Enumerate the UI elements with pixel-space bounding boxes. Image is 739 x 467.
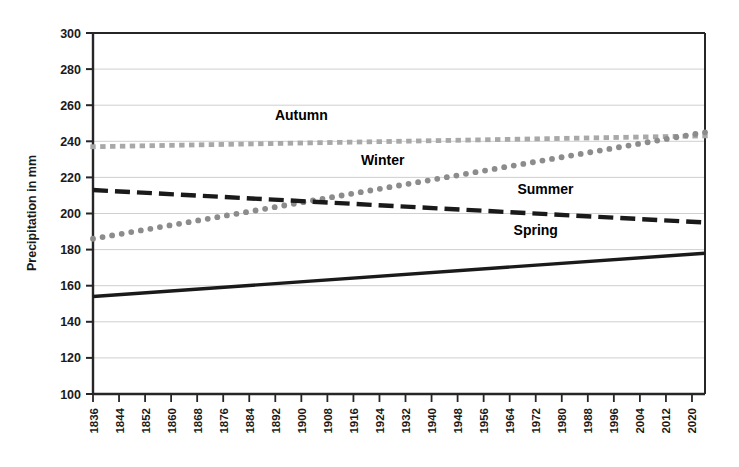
series-marker	[195, 218, 201, 224]
series-label-winter: Winter	[361, 152, 405, 168]
series-marker	[205, 216, 211, 222]
series-marker	[138, 228, 144, 234]
series-marker	[224, 213, 230, 219]
series-marker	[473, 169, 479, 175]
series-marker	[281, 203, 287, 209]
series-spring	[93, 253, 705, 296]
series-marker	[578, 151, 584, 157]
series-marker	[150, 143, 155, 148]
series-marker	[140, 143, 145, 148]
series-marker	[167, 223, 173, 229]
series-marker	[616, 144, 622, 150]
series-marker	[130, 144, 135, 149]
series-marker	[436, 138, 441, 143]
y-tick-label: 100	[60, 388, 81, 402]
series-marker	[90, 144, 95, 149]
series-marker	[248, 142, 253, 147]
series-marker	[446, 138, 451, 143]
series-marker	[604, 135, 609, 140]
series-marker	[100, 234, 106, 240]
series-marker	[268, 141, 273, 146]
series-marker	[465, 138, 470, 143]
series-marker	[169, 143, 174, 148]
series-marker	[307, 140, 312, 145]
series-marker	[426, 138, 431, 143]
series-marker	[654, 138, 660, 144]
precipitation-trend-chart: 100120140160180200220240260280300 183618…	[0, 0, 739, 467]
x-tick-label: 1844	[114, 407, 126, 433]
x-tick-label: 1940	[426, 408, 438, 434]
series-marker	[683, 133, 689, 139]
series-marker	[219, 142, 224, 147]
series-marker	[444, 174, 450, 180]
series-marker	[453, 173, 459, 179]
series-marker	[635, 141, 641, 147]
series-marker	[377, 186, 383, 192]
series-marker	[358, 189, 364, 195]
series-marker	[594, 135, 599, 140]
series-marker	[367, 139, 372, 144]
series-marker	[109, 233, 115, 239]
series-marker	[329, 194, 335, 200]
series-marker	[702, 129, 708, 135]
x-tick-label: 1956	[478, 408, 490, 434]
series-marker	[100, 144, 105, 149]
series-marker	[209, 142, 214, 147]
series-marker	[564, 136, 569, 141]
series-marker	[179, 143, 184, 148]
series-marker	[347, 140, 352, 145]
series-marker	[258, 141, 263, 146]
x-tick-label: 1996	[608, 408, 620, 434]
series-marker	[110, 144, 115, 149]
y-tick-label: 180	[60, 243, 81, 257]
series-marker	[386, 139, 391, 144]
series-marker	[377, 139, 382, 144]
series-marker	[456, 138, 461, 143]
y-tick-label: 300	[60, 27, 81, 41]
series-marker	[337, 140, 342, 145]
series-marker	[434, 176, 440, 182]
x-tick-label: 1908	[322, 407, 334, 433]
series-marker	[159, 143, 164, 148]
series-marker	[492, 166, 498, 172]
x-tick-label: 1868	[192, 407, 204, 433]
series-marker	[475, 138, 480, 143]
x-tick-label: 1972	[530, 408, 542, 434]
series-marker	[520, 161, 526, 167]
x-tick-label: 1964	[504, 407, 516, 433]
series-marker	[664, 136, 670, 142]
series-marker	[559, 154, 565, 160]
series-marker	[406, 139, 411, 144]
series-marker	[530, 159, 536, 165]
series-marker	[544, 136, 549, 141]
series-marker	[623, 135, 628, 140]
series-marker	[357, 140, 362, 145]
series-label-spring: Spring	[514, 222, 558, 238]
series-marker	[199, 142, 204, 147]
series-marker	[176, 221, 182, 227]
series-line	[93, 190, 705, 222]
x-tick-label: 1924	[374, 407, 386, 433]
series-marker	[396, 183, 402, 189]
series-marker	[540, 158, 546, 164]
series-marker	[228, 142, 233, 147]
series-marker	[234, 211, 240, 217]
series-marker	[534, 136, 539, 141]
series-marker	[387, 184, 393, 190]
series-marker	[147, 226, 153, 232]
series-marker	[367, 188, 373, 194]
series-marker	[673, 134, 679, 140]
y-tick-label: 120	[60, 351, 81, 365]
series-marker	[317, 140, 322, 145]
series-marker	[339, 193, 345, 199]
series-marker	[495, 137, 500, 142]
series-marker	[415, 179, 421, 185]
series-marker	[554, 136, 559, 141]
x-tick-label: 1948	[452, 407, 464, 433]
series-summer	[93, 190, 705, 222]
series-label-autumn: Autumn	[275, 107, 328, 123]
series-marker	[568, 153, 574, 159]
series-marker	[238, 142, 243, 147]
chart-canvas: 100120140160180200220240260280300 183618…	[0, 0, 739, 467]
series-marker	[626, 143, 632, 149]
